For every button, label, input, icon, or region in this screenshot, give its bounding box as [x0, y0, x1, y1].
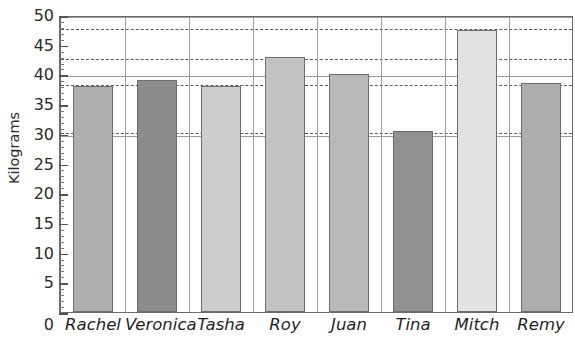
- y-axis-minor-tick: [59, 129, 64, 130]
- y-axis-minor-tick: [59, 230, 64, 231]
- y-axis-minor-tick: [59, 111, 64, 112]
- gridline-vertical: [381, 17, 382, 312]
- y-axis-minor-tick: [59, 22, 64, 23]
- y-axis-major-tick: [59, 165, 68, 167]
- y-axis-minor-tick: [59, 58, 64, 59]
- y-axis-minor-tick: [59, 307, 64, 308]
- y-axis-major-tick: [59, 105, 68, 107]
- y-axis-minor-tick: [59, 52, 64, 53]
- bar-chart: Kilograms 5045403530252015105 0 RachelVe…: [0, 0, 575, 340]
- y-axis-tick-label: 35: [20, 97, 54, 113]
- y-axis-minor-tick: [59, 87, 64, 88]
- y-axis-minor-tick: [59, 99, 64, 100]
- y-axis-minor-tick: [59, 81, 64, 82]
- y-axis-minor-tick: [59, 277, 64, 278]
- y-axis-tick-label: 10: [20, 246, 54, 262]
- y-axis-tick-label: 50: [20, 8, 54, 24]
- y-axis-major-tick: [59, 224, 68, 226]
- x-axis-label-juan: Juan: [317, 315, 381, 334]
- y-axis-major-tick: [59, 75, 68, 77]
- x-axis-label-veronica: Veronica: [125, 315, 189, 334]
- plot-area: [61, 16, 573, 313]
- bar-veronica: [137, 80, 177, 312]
- y-axis-minor-tick: [59, 218, 64, 219]
- y-axis-minor-tick: [59, 236, 64, 237]
- y-axis-minor-tick: [59, 242, 64, 243]
- y-axis-minor-tick: [59, 170, 64, 171]
- x-axis-label-tina: Tina: [381, 315, 445, 334]
- y-axis-minor-tick: [59, 206, 64, 207]
- y-axis-minor-tick: [59, 159, 64, 160]
- bar-tina: [393, 131, 433, 312]
- gridline-vertical: [509, 17, 510, 312]
- x-axis-label-rachel: Rachel: [61, 315, 125, 334]
- x-axis-label-tasha: Tasha: [189, 315, 253, 334]
- y-axis-minor-tick: [59, 295, 64, 296]
- y-axis-minor-tick: [59, 153, 64, 154]
- bar-juan: [329, 74, 369, 312]
- bar-remy: [521, 83, 561, 312]
- y-axis-minor-tick: [59, 117, 64, 118]
- y-axis-minor-tick: [59, 64, 64, 65]
- y-axis-major-tick: [59, 46, 68, 48]
- y-axis-minor-tick: [59, 289, 64, 290]
- bar-roy: [265, 57, 305, 312]
- x-axis-label-remy: Remy: [509, 315, 573, 334]
- y-axis-zero-label: 0: [16, 315, 54, 334]
- y-axis-tick-label: 30: [20, 127, 54, 143]
- gridline-vertical: [317, 17, 318, 312]
- y-axis-minor-tick: [59, 188, 64, 189]
- y-axis-major-tick: [59, 135, 68, 137]
- gridline-vertical: [189, 17, 190, 312]
- y-axis-minor-tick: [59, 123, 64, 124]
- y-axis-minor-tick: [59, 34, 64, 35]
- y-axis-minor-tick: [59, 182, 64, 183]
- y-axis-tick-label: 15: [20, 216, 54, 232]
- y-axis-minor-tick: [59, 147, 64, 148]
- y-axis-minor-tick: [59, 265, 64, 266]
- y-axis-tick-labels: 5045403530252015105: [16, 0, 54, 340]
- y-axis-major-tick: [59, 16, 68, 18]
- y-axis-minor-tick: [59, 271, 64, 272]
- y-axis-major-tick: [59, 254, 68, 256]
- y-axis-tick-label: 45: [20, 38, 54, 54]
- y-axis-minor-tick: [59, 93, 64, 94]
- y-axis-minor-tick: [59, 260, 64, 261]
- y-axis-major-tick: [59, 194, 68, 196]
- y-axis-minor-tick: [59, 200, 64, 201]
- y-axis-minor-tick: [59, 141, 64, 142]
- y-axis-minor-tick: [59, 40, 64, 41]
- y-axis-tick-label: 25: [20, 157, 54, 173]
- y-axis-minor-tick: [59, 301, 64, 302]
- bar-mitch: [457, 30, 497, 312]
- y-axis-tick-label: 20: [20, 186, 54, 202]
- chart-title: [92, 0, 512, 4]
- y-axis-major-tick: [59, 283, 68, 285]
- y-axis-minor-tick: [59, 28, 64, 29]
- y-axis-minor-tick: [59, 69, 64, 70]
- bar-rachel: [73, 86, 113, 312]
- gridline-vertical: [253, 17, 254, 312]
- x-axis-label-roy: Roy: [253, 315, 317, 334]
- y-axis-minor-tick: [59, 248, 64, 249]
- x-axis-label-mitch: Mitch: [445, 315, 509, 334]
- y-axis-minor-tick: [59, 176, 64, 177]
- gridline-vertical: [125, 17, 126, 312]
- bar-tasha: [201, 86, 241, 312]
- y-axis-tick-label: 40: [20, 67, 54, 83]
- gridline-vertical: [445, 17, 446, 312]
- y-axis-minor-tick: [59, 212, 64, 213]
- y-axis-tick-label: 5: [20, 275, 54, 291]
